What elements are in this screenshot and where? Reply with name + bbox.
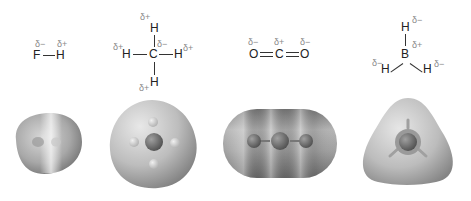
ch4-surface [110,100,197,188]
ch4-h-ball-top [148,117,158,127]
co2-c-ball [271,132,289,150]
co2-surface [223,109,337,178]
hf-f-atom-ball [32,137,44,147]
hf-surface [16,113,82,174]
ch4-h-ball-bottom [149,159,159,169]
co2-o-ball-right [299,134,313,148]
ch4-c-ball [145,133,163,151]
electrostatic-surfaces [0,0,471,201]
bh3-surface [363,98,453,185]
ch4-h-ball-right [170,138,180,148]
hf-h-atom-ball [51,138,61,147]
bh3-b-ball [399,133,417,151]
ch4-h-ball-left [129,137,139,147]
co2-o-ball-left [247,134,261,148]
